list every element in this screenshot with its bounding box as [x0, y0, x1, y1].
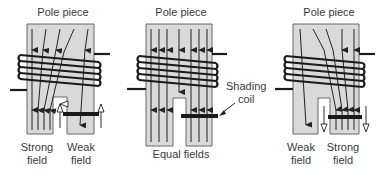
- shading-coil-callout: Shading coil: [226, 80, 270, 106]
- coil-winding: [275, 54, 375, 89]
- figure1-label-strong: Strong field: [20, 141, 54, 167]
- figure-strong-weak: [10, 24, 110, 134]
- figure-equal: [127, 24, 235, 146]
- figure1-title: Pole piece: [27, 6, 99, 19]
- figure1-label-weak: Weak field: [64, 141, 98, 167]
- figure3-title: Pole piece: [293, 6, 365, 19]
- figure3-label-weak: Weak field: [284, 141, 318, 167]
- figure2-title: Pole piece: [145, 6, 217, 19]
- figure-weak-strong: [275, 24, 375, 134]
- figure2-caption: Equal fields: [140, 148, 222, 161]
- figure3-label-strong: Strong field: [325, 141, 361, 167]
